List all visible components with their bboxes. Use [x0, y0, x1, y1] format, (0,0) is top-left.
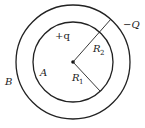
- R1-label: R 1: [71, 72, 83, 86]
- svg-text:1: 1: [79, 78, 83, 86]
- charge-inner-label: +q: [55, 30, 70, 41]
- svg-text:2: 2: [100, 49, 104, 57]
- R2-label: R 2: [92, 43, 104, 57]
- region-B-label: B: [4, 76, 12, 87]
- spherical-shells-diagram: +q −Q B A R 2 R 1: [0, 0, 145, 128]
- charge-outer-label: −Q: [123, 19, 140, 30]
- region-A-label: A: [39, 67, 47, 78]
- radius-R2-line: [73, 19, 111, 62]
